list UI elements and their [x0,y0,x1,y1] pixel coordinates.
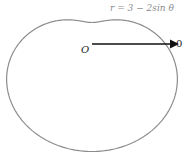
polar-axis-label: 0 [176,38,182,49]
equation-label: r = 3 − 2sin θ [110,3,174,13]
origin-label: O [81,44,89,55]
polar-plot-canvas [0,0,190,155]
limacon-curve [7,20,178,152]
polar-graph: r = 3 − 2sin θ O 0 [0,0,190,155]
